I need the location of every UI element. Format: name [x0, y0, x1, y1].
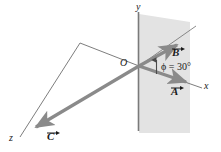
vector-label-a: A: [171, 85, 178, 97]
z-axis-line-upper: [80, 43, 139, 66]
angle-label: ϕ = 30°: [161, 62, 191, 72]
vector-b-letter: B: [172, 46, 179, 58]
vector-diagram-figure: y x z O B A C ϕ = 30°: [0, 0, 221, 152]
z-axis-line: [20, 43, 80, 137]
origin-label: O: [120, 58, 127, 68]
axis-label-z: z: [9, 133, 13, 143]
vector-label-b: B: [172, 46, 179, 58]
vector-a-letter: A: [171, 85, 178, 97]
axis-label-y: y: [136, 2, 140, 12]
vector-label-c: C: [47, 130, 54, 142]
vector-c-shaft: [36, 66, 139, 127]
vector-c-letter: C: [47, 130, 54, 142]
diagram-canvas: [0, 0, 221, 152]
axis-label-x: x: [204, 81, 208, 91]
